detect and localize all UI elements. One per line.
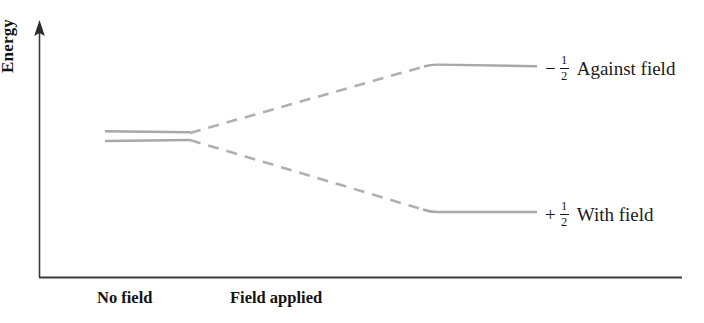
y-axis — [34, 20, 45, 277]
upper-level-numerator: 1 — [560, 54, 568, 67]
lower-level-sign: + — [545, 205, 556, 224]
y-axis-title: Energy — [0, 19, 18, 73]
figure-canvas: Energy No field Field applied − 1 2 Agai… — [0, 0, 704, 323]
lower-level-fraction: 1 2 — [560, 200, 569, 229]
lower-branch-dashed — [190, 140, 423, 210]
lower-level-numerator: 1 — [560, 200, 568, 213]
lower-level-label: + 1 2 With field — [545, 200, 654, 229]
upper-level-label: − 1 2 Against field — [545, 54, 675, 83]
x-tick-label-no-field: No field — [97, 288, 152, 308]
upper-level-text: Against field — [577, 59, 676, 78]
upper-level-denominator: 2 — [560, 70, 568, 83]
lower-level-text: With field — [577, 205, 654, 224]
upper-branch-dashed — [190, 67, 424, 134]
upper-level-sign: − — [545, 59, 556, 78]
x-tick-label-field-applied: Field applied — [230, 288, 322, 308]
upper-level-fraction: 1 2 — [560, 54, 569, 83]
upper-branch-level — [424, 65, 537, 67]
degenerate-level-upper — [105, 131, 190, 132]
lower-branch-level — [423, 210, 537, 213]
energy-level-diagram — [0, 0, 704, 323]
degenerate-level-lower — [105, 140, 190, 141]
lower-level-denominator: 2 — [560, 216, 568, 229]
